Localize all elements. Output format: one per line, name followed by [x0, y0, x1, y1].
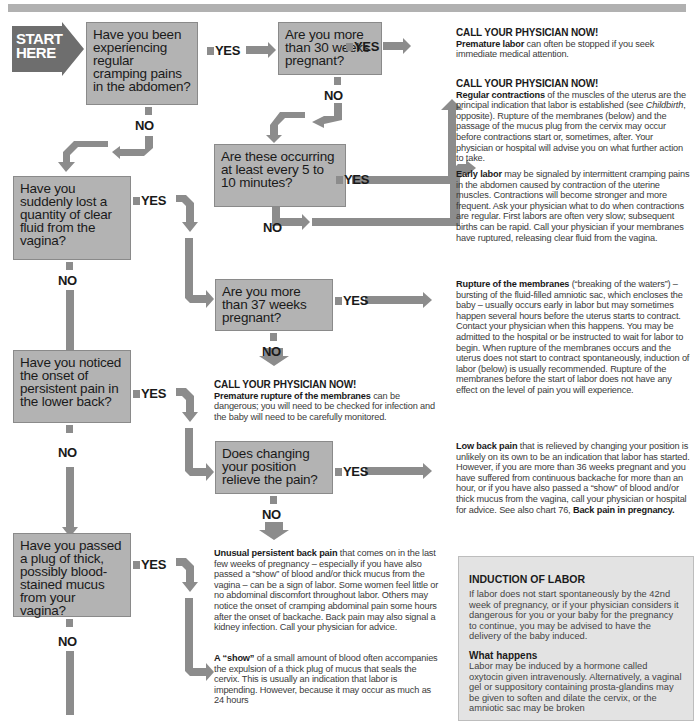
yes-marker — [335, 468, 342, 476]
outcome-body: (“breaking of the waters”) – bursting of… — [456, 279, 689, 395]
yes-label-q2: YES — [346, 40, 379, 53]
outcome-bold: Unusual persistent back pain — [214, 548, 337, 558]
arrow-q1-yes — [246, 46, 268, 54]
yes-label-q8: YES — [133, 558, 166, 571]
outcome-bold: A “show” — [214, 653, 254, 663]
start-line-2: HERE — [16, 46, 62, 60]
arrow-q5-yes-head — [423, 292, 432, 308]
no-label-q1: NO — [135, 118, 154, 133]
outcome-rupture: Rupture of the membranes (“breaking of t… — [456, 279, 692, 396]
outcome-body: that is relieved by changing your positi… — [456, 441, 690, 515]
no-label-q3: NO — [263, 220, 282, 235]
no-label-q7: NO — [262, 507, 281, 522]
yes-label-q4: YES — [133, 194, 166, 207]
yes-marker — [207, 47, 214, 55]
outcome-bold: Rupture of the membranes — [456, 279, 569, 289]
question-box-frequency: Are these occurring at least every 5 to … — [214, 144, 346, 207]
outcome-link-back-pain: Back pain in pregnancy. — [573, 505, 675, 515]
no-label-q6: NO — [58, 445, 77, 460]
yes-text: YES — [344, 173, 369, 186]
outcome-body: that comes on in the last few weeks of p… — [214, 548, 438, 632]
induction-subtitle: What happens — [469, 650, 683, 661]
outcome-bold: Early labor — [456, 169, 502, 179]
no-marker-q2 — [334, 77, 341, 85]
question-box-back-pain: Have you noticed the onset of persistent… — [13, 350, 131, 423]
question-box-mucus-plug: Have you passed a plug of thick, possibl… — [13, 533, 131, 617]
no-label-q4: NO — [58, 273, 77, 288]
arrow-q2-no — [312, 103, 342, 128]
yes-text: YES — [215, 44, 240, 57]
arrow-q6-yes-long — [185, 428, 214, 481]
outcome-bold: Regular contractions — [456, 90, 545, 100]
outcome-premature-labor: CALL YOUR PHYSICIAN NOW!Premature labor … — [456, 28, 690, 60]
yes-marker — [133, 390, 140, 398]
outcome-bold: Premature rupture of the membranes — [214, 391, 371, 401]
arrow-q4-yes-long — [185, 238, 214, 308]
outcome-heading: CALL YOUR PHYSICIAN NOW! — [456, 79, 692, 90]
question-box-position: Does changing your position relieve the … — [215, 441, 333, 494]
outcome-regular-contractions: CALL YOUR PHYSICIAN NOW!Regular contract… — [456, 79, 692, 164]
arrow-q8-yes-long — [185, 598, 214, 681]
arrow-q1-no — [112, 136, 153, 159]
induction-title: INDUCTION OF LABOR — [469, 573, 683, 585]
yes-text: YES — [343, 294, 368, 307]
outcome-show: A “show” of a small amount of blood ofte… — [214, 653, 442, 706]
arrow-q1-no-bend — [58, 141, 108, 172]
yes-text: YES — [141, 558, 166, 571]
question-box-fluid-loss: Have you suddenly lost a quantity of cle… — [13, 176, 131, 260]
no-marker-q1 — [145, 107, 152, 115]
arrow-q4-yes — [176, 195, 198, 232]
no-label-q2: NO — [324, 88, 343, 103]
arrow-q2-yes — [383, 42, 403, 50]
yes-marker — [346, 43, 353, 51]
arrow-q1-yes-head — [268, 42, 276, 58]
outcome-unusual-back-pain: Unusual persistent back pain that comes … — [214, 548, 442, 633]
yes-marker — [133, 561, 140, 569]
arrow-q6-yes — [176, 388, 198, 422]
yes-marker — [133, 197, 140, 205]
outcome-premature-rupture: CALL YOUR PHYSICIAN NOW!Premature ruptur… — [214, 380, 440, 422]
no-label-q8: NO — [58, 634, 77, 649]
induction-body: If labor does not start spontaneously by… — [469, 589, 683, 642]
outcome-early-labor: Early labor may be signaled by intermitt… — [456, 169, 692, 243]
question-box-cramping: Have you been experiencing regular cramp… — [86, 22, 198, 105]
yes-label-q3: YES — [336, 173, 369, 186]
yes-text: YES — [354, 40, 379, 53]
outcome-heading: CALL YOUR PHYSICIAN NOW! — [456, 28, 690, 39]
outcome-low-back-pain: Low back pain that is relieved by changi… — [456, 441, 692, 515]
outcome-heading: CALL YOUR PHYSICIAN NOW! — [214, 380, 440, 391]
no-marker-q8 — [66, 619, 73, 627]
arrow-q7-yes-head — [423, 463, 432, 479]
arrow-q2-yes-head — [403, 38, 411, 54]
no-marker-q6 — [66, 425, 73, 433]
yes-marker — [336, 176, 343, 184]
outcome-bold: Premature labor — [456, 39, 524, 49]
arrow-q6-no — [66, 467, 74, 527]
arrow-q8-yes — [176, 558, 198, 592]
outcome-italic: Childbirth — [646, 100, 683, 110]
yes-label-q7: YES — [335, 465, 368, 478]
yes-marker — [335, 297, 342, 305]
induction-body-2: Labor may be induced by a hormone called… — [469, 661, 683, 714]
no-marker-q7 — [270, 496, 277, 504]
arrow-q8-no — [66, 651, 74, 715]
induction-panel: INDUCTION OF LABOR If labor does not sta… — [458, 556, 694, 721]
arrow-q7-no-head — [259, 522, 289, 540]
no-marker-q4 — [66, 262, 73, 270]
no-label-q5: NO — [262, 344, 281, 359]
start-label: START HERE — [16, 32, 62, 60]
yes-text: YES — [343, 465, 368, 478]
yes-text: YES — [141, 387, 166, 400]
no-marker-q3 — [272, 209, 279, 217]
yes-text: YES — [141, 194, 166, 207]
no-marker-q5 — [270, 333, 277, 341]
outcome-body: may be signaled by intermittent cramping… — [456, 169, 689, 243]
outcome-bold: Low back pain — [456, 441, 517, 451]
yes-label-q5: YES — [335, 294, 368, 307]
arrow-q5-yes — [365, 296, 423, 304]
yes-label-q1: YES — [207, 44, 240, 57]
question-box-37-weeks: Are you more than 37 weeks pregnant? — [215, 279, 333, 331]
yes-label-q6: YES — [133, 387, 166, 400]
arrow-q7-yes — [365, 467, 423, 475]
arrow-q2-no-bend — [266, 112, 305, 143]
